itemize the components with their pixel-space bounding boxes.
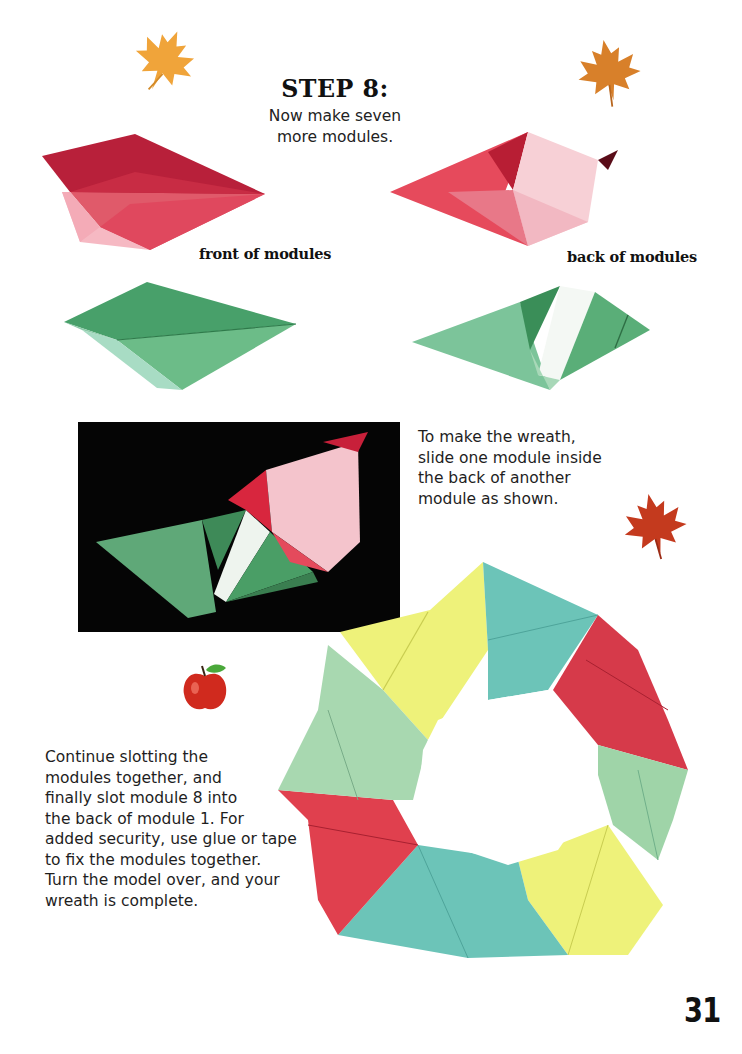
paragraph-line: wreath is complete. (45, 891, 325, 912)
paragraph-line: To make the wreath, (418, 427, 618, 448)
maple-leaf-orange-icon (572, 36, 644, 108)
maple-leaf-yellow-icon (128, 25, 200, 95)
apple-icon (180, 662, 230, 714)
front-of-modules-caption: front of modules (199, 245, 331, 262)
green-module-back-image (410, 280, 650, 392)
paragraph-line: added security, use glue or tape (45, 829, 325, 850)
page-number: 31 (684, 990, 720, 1030)
paragraph-line: finally slot module 8 into (45, 788, 325, 809)
step-title: STEP 8: (254, 74, 416, 103)
paragraph-line: slide one module inside (418, 448, 618, 469)
step-subtitle-line: Now make seven (245, 106, 425, 127)
paragraph-line: modules together, and (45, 768, 325, 789)
origami-wreath-image (268, 560, 698, 960)
continue-instructions-paragraph: Continue slotting the modules together, … (45, 747, 325, 911)
paragraph-line: Turn the model over, and your (45, 870, 325, 891)
paragraph-line: the back of module 1. For (45, 809, 325, 830)
paragraph-line: to fix the modules together. (45, 850, 325, 871)
green-module-front-image (62, 280, 298, 392)
maple-leaf-red-icon (618, 490, 690, 562)
red-module-front-image (40, 132, 272, 252)
back-of-modules-caption: back of modules (567, 248, 697, 265)
paragraph-line: Continue slotting the (45, 747, 325, 768)
wreath-intro-paragraph: To make the wreath, slide one module ins… (418, 427, 618, 509)
paragraph-line: the back of another (418, 468, 618, 489)
red-module-back-image (388, 130, 620, 250)
paragraph-line: module as shown. (418, 489, 618, 510)
